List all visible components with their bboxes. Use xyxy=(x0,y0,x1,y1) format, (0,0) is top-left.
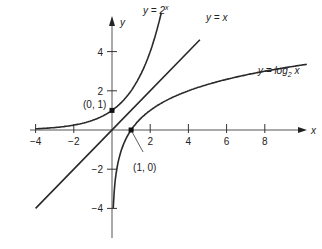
point-leader-1-0 xyxy=(132,132,143,152)
y-tick-label: 2 xyxy=(97,86,103,97)
curves xyxy=(36,13,307,209)
x-tick-label: −2 xyxy=(68,136,80,147)
x-tick-label: 6 xyxy=(224,136,230,147)
axes: xy−4−2246842−2−4 xyxy=(30,16,317,238)
label-log2: y = log2 x xyxy=(257,65,300,78)
x-tick-label: 4 xyxy=(186,136,192,147)
x-tick-label: 8 xyxy=(262,136,268,147)
point-label-0-1: (0, 1) xyxy=(83,99,106,110)
x-tick-label: −4 xyxy=(30,136,42,147)
curve-identity xyxy=(36,40,200,209)
x-axis-label: x xyxy=(310,125,317,136)
y-axis-label: y xyxy=(119,17,126,28)
chart: xy−4−2246842−2−4 (0, 1)(1, 0)y = 2xy = x… xyxy=(0,0,322,249)
x-axis-arrow-icon xyxy=(298,127,307,133)
x-tick-label: 2 xyxy=(147,136,153,147)
labels: (0, 1)(1, 0)y = 2xy = xy = log2 x xyxy=(83,4,300,173)
point-marker xyxy=(110,108,115,113)
y-tick-label: −2 xyxy=(92,164,104,175)
point-marker xyxy=(129,128,134,133)
point-label-1-0: (1, 0) xyxy=(133,162,156,173)
label-exp2: y = 2x xyxy=(142,4,169,16)
curve-log2 xyxy=(113,64,307,208)
y-axis-arrow-icon xyxy=(109,16,115,26)
y-tick-label: −4 xyxy=(92,203,104,214)
curve-exp2 xyxy=(36,13,162,129)
label-identity: y = x xyxy=(205,12,228,23)
y-tick-label: 4 xyxy=(97,47,103,58)
